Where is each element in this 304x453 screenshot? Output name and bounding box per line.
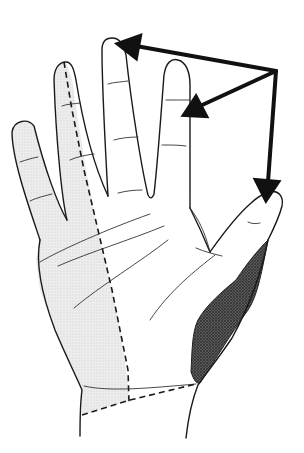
hand-diagram: [0, 0, 304, 453]
arrow-to-thumb: [268, 71, 276, 182]
arrow-to-ring-finger: [200, 71, 276, 106]
arrow-to-middle-finger: [136, 46, 276, 71]
ulnar-region: [12, 62, 130, 415]
arrowhead-middle-finger: [118, 36, 140, 58]
thenar-region: [191, 240, 268, 383]
arrows: [118, 36, 278, 200]
hand-illustration: [0, 0, 304, 453]
